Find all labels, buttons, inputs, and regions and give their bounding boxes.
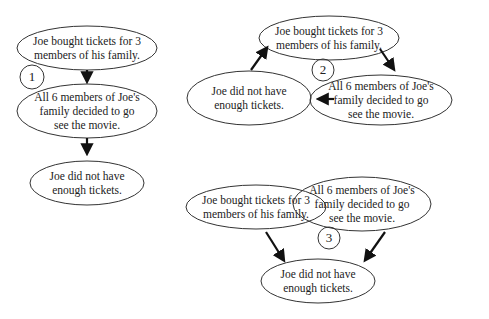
d3-arrow-1 — [266, 232, 283, 259]
d3-node-tickets-label: Joe bought tickets for 3 members of his … — [202, 193, 310, 221]
d3-node-not-enough-label: Joe did not have enough tickets. — [280, 267, 355, 295]
d2-node-tickets-label: Joe bought tickets for 3 members of his … — [275, 24, 383, 52]
d1-node-not-enough-label: Joe did not have enough tickets. — [49, 169, 124, 197]
d1-node-tickets-label: Joe bought tickets for 3 members of his … — [33, 34, 141, 62]
d3-arrow-2 — [366, 232, 385, 259]
d3-node-family-label: All 6 members of Joe's family decided to… — [309, 183, 415, 225]
d2-number: 2 — [320, 62, 327, 78]
d2-node-not-enough-label: Joe did not have enough tickets. — [211, 84, 286, 112]
d2-arrow-3 — [251, 49, 266, 70]
d2-node-family-label: All 6 members of Joe's family decided to… — [328, 79, 434, 121]
d1-number: 1 — [29, 69, 36, 85]
d1-node-family-label: All 6 members of Joe's family decided to… — [34, 90, 140, 132]
d3-number: 3 — [326, 230, 333, 246]
